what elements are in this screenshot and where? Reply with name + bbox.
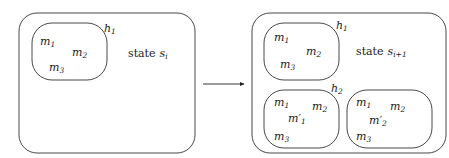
right-h3-m2: m2 xyxy=(390,100,405,114)
right-h3-m1: m1 xyxy=(356,96,371,110)
right-state: h1 m1 m2 m3 statesi+1 h2 m1 m2 m′1 m3 m1… xyxy=(252,13,446,153)
right-h2-m1: m1 xyxy=(274,96,289,110)
right-h1-m1: m1 xyxy=(274,31,289,45)
right-h1-m3: m3 xyxy=(280,58,295,72)
right-h3-group: m1 m2 m′2 m3 xyxy=(347,90,432,148)
right-h3-m2prime: m′2 xyxy=(369,114,387,128)
right-h2-m3: m3 xyxy=(274,130,289,144)
right-h2-label: h2 xyxy=(331,82,343,96)
left-state: h1 m1 m2 m3 statesi xyxy=(19,13,195,153)
right-h1-group: h1 m1 m2 m3 xyxy=(264,19,348,80)
left-h1-m1: m1 xyxy=(40,35,55,49)
left-h1-box xyxy=(32,23,107,80)
right-state-label: statesi+1 xyxy=(356,45,407,59)
right-h1-label: h1 xyxy=(336,19,348,33)
left-h1-m3: m3 xyxy=(49,61,64,75)
right-h3-m3: m3 xyxy=(356,130,371,144)
diagram-canvas: h1 m1 m2 m3 statesi h1 m1 m2 m3 statesi+… xyxy=(0,0,449,158)
right-h1-m2: m2 xyxy=(306,45,321,59)
right-h2-group: h2 m1 m2 m′1 m3 xyxy=(264,82,343,148)
left-h1-m2: m2 xyxy=(72,46,87,60)
left-h1-label: h1 xyxy=(104,22,116,36)
right-h2-m2: m2 xyxy=(312,100,327,114)
right-h2-m1prime: m′1 xyxy=(288,112,306,126)
left-state-label: statesi xyxy=(128,47,168,61)
left-h1-group: h1 m1 m2 m3 xyxy=(32,22,116,80)
